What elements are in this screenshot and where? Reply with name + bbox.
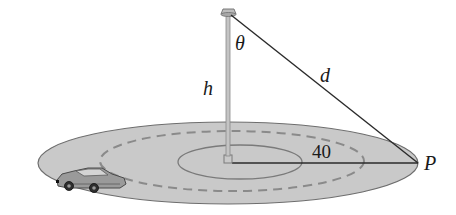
diagram-canvas: θ h d 40 P <box>0 0 456 215</box>
angle-label: θ <box>235 32 245 54</box>
light-pole <box>226 14 230 156</box>
lamp-icon <box>221 9 236 17</box>
point-label: P <box>423 152 436 174</box>
height-label: h <box>203 77 213 99</box>
radius-label: 40 <box>312 141 331 162</box>
distance-label: d <box>320 64 331 86</box>
